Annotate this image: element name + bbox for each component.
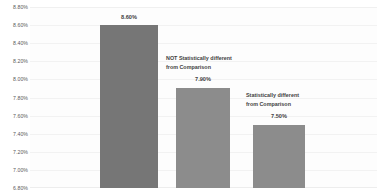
- y-axis-tick-label: 7.40%: [0, 131, 28, 137]
- y-axis-tick-label: 6.80%: [0, 185, 28, 191]
- bar-1-value-label: 8.60%: [100, 14, 158, 21]
- bar-2-annotation-line-1: NOT Statistically different: [166, 55, 232, 62]
- y-axis: 8.80% 8.60% 8.40% 8.20% 8.00% 7.80% 7.60…: [0, 0, 30, 195]
- y-axis-tick-label: 8.40%: [0, 40, 28, 46]
- y-axis-tick-label: 7.20%: [0, 149, 28, 155]
- gridline: [30, 7, 377, 8]
- bar-1[interactable]: [100, 25, 158, 188]
- bar-3[interactable]: [253, 125, 305, 188]
- bar-3-annotation-line-2: from Comparison: [246, 101, 291, 108]
- bar-2-value-label: 7.90%: [176, 76, 230, 83]
- y-axis-tick-label: 7.00%: [0, 167, 28, 173]
- y-axis-tick-label: 7.80%: [0, 95, 28, 101]
- bar-3-annotation-line-1: Statistically different: [246, 92, 299, 99]
- y-axis-tick-label: 8.60%: [0, 22, 28, 28]
- bar-chart: 8.80% 8.60% 8.40% 8.20% 8.00% 7.80% 7.60…: [0, 0, 377, 195]
- y-axis-tick-label: 8.80%: [0, 4, 28, 10]
- bar-2[interactable]: [176, 88, 230, 188]
- gridline: [30, 43, 377, 44]
- bar-2-annotation-line-2: from Comparison: [166, 64, 211, 71]
- bar-3-value-label: 7.50%: [253, 113, 305, 120]
- gridline: [30, 25, 377, 26]
- y-axis-tick-label: 7.60%: [0, 113, 28, 119]
- y-axis-tick-label: 8.00%: [0, 76, 28, 82]
- plot-area: [30, 7, 377, 188]
- y-axis-tick-label: 8.20%: [0, 58, 28, 64]
